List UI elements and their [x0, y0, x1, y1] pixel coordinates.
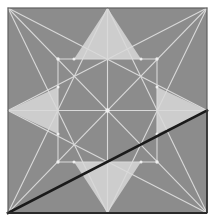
vertex-star-left-base-bottom — [57, 133, 60, 136]
vertex-star-right-base-top — [156, 86, 159, 89]
geometric-star-diagram — [0, 0, 214, 223]
vertex-star-top-base-left — [73, 58, 76, 61]
vertex-star-top-base-right — [140, 58, 143, 61]
vertex-star-bottom-base-right — [140, 161, 143, 164]
vertex-star-left-base-top — [57, 86, 60, 89]
vertex-inner-top-left — [56, 57, 59, 60]
vertex-star-bottom-base-left — [73, 161, 76, 164]
vertex-center — [105, 108, 109, 112]
vertex-inner-bottom-right — [155, 160, 158, 163]
vertex-inner-top-right — [155, 57, 158, 60]
vertex-inner-bottom-left — [56, 160, 59, 163]
figure-root — [0, 0, 214, 223]
